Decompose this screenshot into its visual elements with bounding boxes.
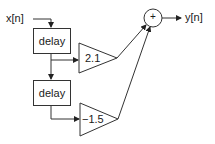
adder-plus-label: + <box>150 12 156 22</box>
gain1-label: 2.1 <box>85 53 100 64</box>
delay2-to-gain2-wire <box>51 105 79 119</box>
diagram-canvas <box>0 0 215 144</box>
delay1-to-gain1-wire <box>51 53 78 60</box>
gain2-to-sum-wire <box>118 27 150 119</box>
input-label: x[n] <box>6 13 24 24</box>
output-label: y[n] <box>185 12 203 23</box>
delay-block-2: delay <box>33 80 71 106</box>
gain1-to-sum-wire <box>117 25 146 58</box>
gain2-label: −1.5 <box>82 114 104 125</box>
input-wire <box>33 19 51 27</box>
delay-block-1: delay <box>33 28 71 54</box>
